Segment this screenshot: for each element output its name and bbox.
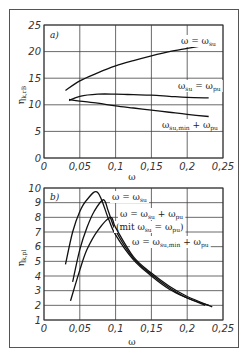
- chart-canvas: 00,050,10,150,20,250510152025a)ωηk,rB​ω …: [0, 0, 248, 356]
- panel-b-chart: 00,050,10,150,20,2512345678910b)ωηk,pl​ω…: [16, 183, 234, 348]
- x-tick-label: 0: [41, 323, 47, 334]
- x-tick-label: 0,1: [108, 161, 124, 172]
- y-tick-label: 5: [35, 256, 41, 267]
- y-tick-label: 6: [35, 241, 41, 252]
- y-tick-label: 8: [35, 212, 41, 223]
- x-tick-label: 0,2: [179, 323, 195, 334]
- x-tick-label: 0,15: [140, 161, 162, 172]
- x-tick-label: 0,05: [69, 323, 91, 334]
- x-tick-label: 0: [41, 161, 47, 172]
- y-axis-label: ηk,rB​: [16, 85, 27, 104]
- y-tick-label: 15: [28, 73, 41, 84]
- panel-a-chart: 00,050,10,150,20,250510152025a)ωηk,rB​ω …: [16, 20, 234, 183]
- x-tick-label: 0,25: [212, 323, 234, 334]
- y-axis-label: ηk,pl​: [16, 250, 28, 267]
- series-line-2: [69, 94, 209, 101]
- y-tick-label: 4: [35, 271, 41, 282]
- y-tick-label: 25: [28, 20, 41, 31]
- y-tick-label: 2: [35, 300, 41, 311]
- series-line-3: [69, 99, 209, 116]
- y-tick-label: 10: [28, 99, 41, 110]
- x-tick-label: 0,2: [179, 161, 195, 172]
- x-tick-label: 0,1: [108, 323, 124, 334]
- x-axis-label: ω: [128, 172, 135, 182]
- y-tick-label: 10: [28, 183, 41, 194]
- y-tick-label: 7: [35, 227, 42, 238]
- y-tick-label: 3: [35, 285, 41, 296]
- y-tick-label: 1: [35, 315, 41, 326]
- x-tick-label: 0,15: [140, 323, 162, 334]
- x-tick-label: 0,25: [212, 161, 234, 172]
- y-tick-label: 5: [35, 126, 41, 137]
- y-tick-label: 0: [35, 153, 41, 164]
- x-axis-label: ω: [128, 337, 135, 347]
- y-tick-label: 9: [35, 197, 41, 208]
- panel-label: a): [50, 30, 59, 40]
- y-tick-label: 20: [28, 46, 41, 57]
- x-tick-label: 0,05: [69, 161, 91, 172]
- panel-label: b): [50, 192, 60, 202]
